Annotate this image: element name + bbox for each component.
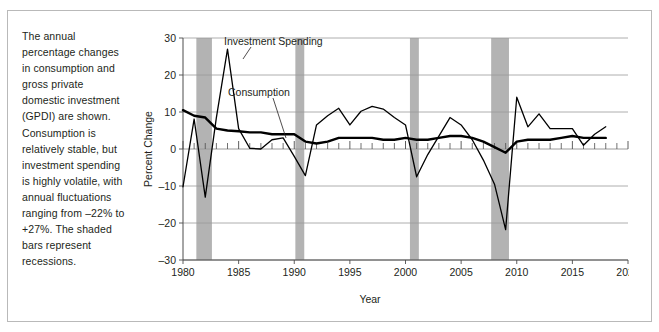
y-tick-label: –10: [158, 180, 176, 192]
investment-series-label: Investment Spending: [224, 35, 323, 47]
line-chart-svg: –30–20–100102030198019851990199520002005…: [155, 25, 629, 325]
consumption-series-label: Consumption: [228, 86, 290, 98]
y-tick-label: 30: [164, 32, 176, 44]
figure-caption: The annual percentage changes in consump…: [22, 28, 126, 269]
x-tick-label: 2020: [616, 266, 629, 278]
x-tick-label: 1995: [338, 266, 362, 278]
y-tick-label: –30: [158, 254, 176, 266]
y-tick-label: –20: [158, 217, 176, 229]
x-tick-label: 2015: [561, 266, 585, 278]
x-tick-label: 2005: [449, 266, 473, 278]
x-tick-label: 1985: [227, 266, 251, 278]
consumption-leader-line: [273, 98, 286, 138]
investment-leader-line: [243, 47, 251, 59]
x-tick-label: 1980: [171, 266, 195, 278]
y-axis-title: Percent Change: [142, 39, 154, 259]
x-tick-label: 2010: [505, 266, 529, 278]
figure-container: The annual percentage changes in consump…: [0, 0, 659, 332]
y-tick-label: 10: [164, 106, 176, 118]
x-tick-label: 1990: [283, 266, 307, 278]
y-tick-label: 0: [170, 143, 176, 155]
x-axis-title: Year: [155, 293, 585, 305]
y-tick-label: 20: [164, 69, 176, 81]
x-tick-label: 2000: [394, 266, 418, 278]
chart-plot-area: Percent Change –30–20–100102030198019851…: [155, 25, 629, 325]
